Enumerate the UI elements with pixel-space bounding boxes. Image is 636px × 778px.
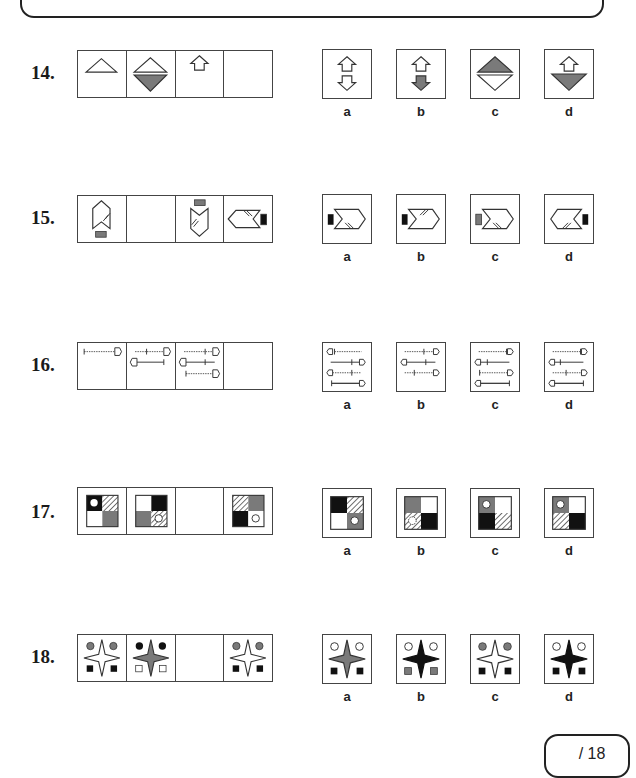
sequence-cell-empty[interactable] — [224, 51, 272, 97]
arrow-triangle-icon — [545, 50, 593, 98]
option-d[interactable] — [544, 49, 594, 99]
sequence-cell-3 — [176, 196, 225, 242]
sequence-strip — [77, 342, 273, 390]
option-c[interactable] — [470, 194, 520, 244]
option-d[interactable] — [544, 342, 594, 392]
option-label: b — [396, 104, 446, 119]
option-label: c — [470, 689, 520, 704]
sequence-strip — [77, 195, 273, 243]
sequence-cell-3 — [176, 343, 225, 389]
up-down-arrow-icon — [397, 50, 445, 98]
sequence-cell-4 — [224, 196, 272, 242]
arrow-lines-icon — [323, 343, 371, 391]
option-label: c — [470, 397, 520, 412]
option-d[interactable] — [544, 634, 594, 684]
option-d[interactable] — [544, 488, 594, 538]
sequence-cell-1 — [78, 196, 127, 242]
sequence-cell-1 — [78, 488, 127, 534]
option-label: c — [470, 104, 520, 119]
chevron-shape-icon — [176, 196, 224, 242]
star-icon — [127, 635, 175, 681]
quad-grid-icon — [471, 489, 519, 537]
up-arrow-icon — [176, 51, 224, 97]
option-a[interactable] — [322, 194, 372, 244]
option-label: b — [396, 249, 446, 264]
option-label: d — [544, 397, 594, 412]
chevron-shape-icon — [471, 195, 519, 243]
option-a[interactable] — [322, 488, 372, 538]
sequence-cell-empty[interactable] — [127, 196, 176, 242]
quad-grid-icon — [224, 488, 272, 534]
arrow-line-icon — [127, 343, 175, 389]
option-a[interactable] — [322, 342, 372, 392]
chevron-shape-icon — [323, 195, 371, 243]
arrow-lines-icon — [545, 343, 593, 391]
option-label: c — [470, 249, 520, 264]
sequence-cell-2 — [127, 343, 176, 389]
option-label: b — [396, 689, 446, 704]
option-c[interactable] — [470, 634, 520, 684]
chevron-shape-icon — [78, 196, 126, 242]
option-a[interactable] — [322, 49, 372, 99]
option-label: a — [322, 689, 372, 704]
quad-grid-icon — [397, 489, 445, 537]
triangle-icon — [78, 51, 126, 97]
sequence-cell-1 — [78, 343, 127, 389]
chevron-shape-icon — [545, 195, 593, 243]
option-label: b — [396, 397, 446, 412]
option-c[interactable] — [470, 342, 520, 392]
star-icon — [78, 635, 126, 681]
option-label: d — [544, 104, 594, 119]
option-label: b — [396, 543, 446, 558]
arrow-lines-icon — [471, 343, 519, 391]
question-number: 16. — [31, 354, 55, 376]
sequence-cell-empty[interactable] — [176, 635, 225, 681]
option-a[interactable] — [322, 634, 372, 684]
option-label: a — [322, 397, 372, 412]
sequence-cell-2 — [127, 488, 176, 534]
option-b[interactable] — [396, 342, 446, 392]
quad-grid-icon — [545, 489, 593, 537]
option-c[interactable] — [470, 488, 520, 538]
option-label: a — [322, 543, 372, 558]
arrow-line-icon — [78, 343, 126, 389]
question-number: 17. — [31, 501, 55, 523]
diamond-split-icon — [127, 51, 175, 97]
star-icon — [323, 635, 371, 683]
option-b[interactable] — [396, 488, 446, 538]
sequence-cell-empty[interactable] — [176, 488, 225, 534]
option-label: c — [470, 543, 520, 558]
quad-grid-icon — [323, 489, 371, 537]
quad-grid-icon — [127, 488, 175, 534]
score-box: / 18 — [544, 734, 630, 778]
option-label: d — [544, 249, 594, 264]
option-b[interactable] — [396, 194, 446, 244]
star-icon — [471, 635, 519, 683]
sequence-cell-3 — [176, 51, 225, 97]
quad-grid-icon — [78, 488, 126, 534]
option-d[interactable] — [544, 194, 594, 244]
arrow-lines-icon — [397, 343, 445, 391]
sequence-strip — [77, 634, 273, 682]
star-icon — [397, 635, 445, 683]
chevron-shape-icon — [224, 196, 272, 242]
sequence-strip — [77, 487, 273, 535]
question-number: 18. — [31, 646, 55, 668]
sequence-cell-4 — [224, 635, 272, 681]
option-b[interactable] — [396, 634, 446, 684]
question-number: 14. — [31, 62, 55, 84]
sequence-cell-empty[interactable] — [224, 343, 272, 389]
option-b[interactable] — [396, 49, 446, 99]
option-c[interactable] — [470, 49, 520, 99]
option-label: d — [544, 689, 594, 704]
diamond-split-icon — [471, 50, 519, 98]
score-text: / 18 — [546, 745, 628, 763]
option-label: a — [322, 104, 372, 119]
question-number: 15. — [31, 207, 55, 229]
sequence-strip — [77, 50, 273, 98]
sequence-cell-1 — [78, 635, 127, 681]
sequence-cell-2 — [127, 635, 176, 681]
arrow-line-icon — [176, 343, 224, 389]
star-icon — [545, 635, 593, 683]
option-label: d — [544, 543, 594, 558]
